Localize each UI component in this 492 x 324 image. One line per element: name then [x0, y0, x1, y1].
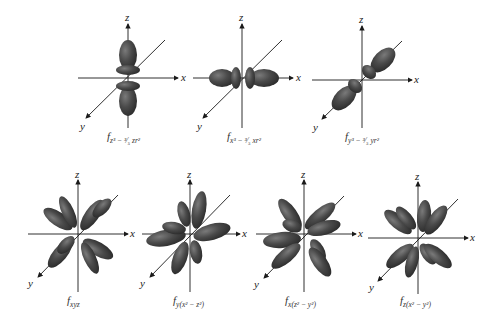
z-axis-label: z: [238, 11, 244, 23]
y-axis-label: y: [368, 281, 374, 293]
orbital-fx3: z x y: [193, 11, 301, 132]
z-axis-label: z: [74, 168, 80, 180]
f-orbitals-diagram: z x y z x y: [0, 0, 492, 324]
orbital-fxz2y2: z x y: [253, 168, 363, 292]
x-axis-label: x: [129, 227, 135, 239]
x-axis-label: x: [469, 231, 475, 243]
z-axis-label: z: [414, 170, 420, 182]
axes: z x y: [27, 168, 135, 292]
z-axis-label: z: [186, 168, 192, 180]
x-axis-label: x: [241, 227, 247, 239]
x-axis-label: x: [357, 227, 363, 239]
caption-fx3: fx³ − ³⁄₅ xr²: [227, 130, 261, 142]
lobes: [145, 190, 233, 276]
caption-fxz2y2: fx(z² − y²): [285, 294, 316, 306]
caption-fyx2z2: fy(x² − z²): [173, 294, 204, 306]
x-axis-label: x: [180, 71, 186, 83]
y-axis-label: y: [312, 121, 318, 133]
y-axis-label: y: [139, 277, 145, 289]
caption-fxyz: fxyz: [67, 294, 80, 306]
orbital-fy3: z x y: [312, 13, 419, 133]
z-axis-label: z: [300, 168, 306, 180]
x-axis-label: x: [413, 73, 419, 85]
y-axis-label: y: [253, 278, 259, 290]
z-axis-label: z: [358, 13, 364, 25]
orbital-fxyz: z x y: [27, 168, 135, 292]
orbital-fz3: z x y: [78, 11, 186, 132]
caption-fy3: fy³ − ³⁄₅ yr²: [345, 130, 379, 142]
axes: z x y: [368, 170, 475, 294]
axes: z x y: [139, 168, 247, 292]
lobes: [262, 195, 342, 280]
orbital-fyx2z2: z x y: [139, 168, 247, 292]
caption-fz3: fz³ − ³⁄₅ zr²: [107, 130, 140, 142]
orbital-fzx2y2: z x y: [368, 170, 475, 294]
caption-fzx2y2: fz(x² − y²): [400, 294, 431, 306]
y-axis-label: y: [196, 120, 202, 132]
z-axis-label: z: [124, 11, 130, 23]
x-axis-label: x: [295, 71, 301, 83]
y-axis-label: y: [79, 120, 85, 132]
y-axis-label: y: [27, 277, 33, 289]
